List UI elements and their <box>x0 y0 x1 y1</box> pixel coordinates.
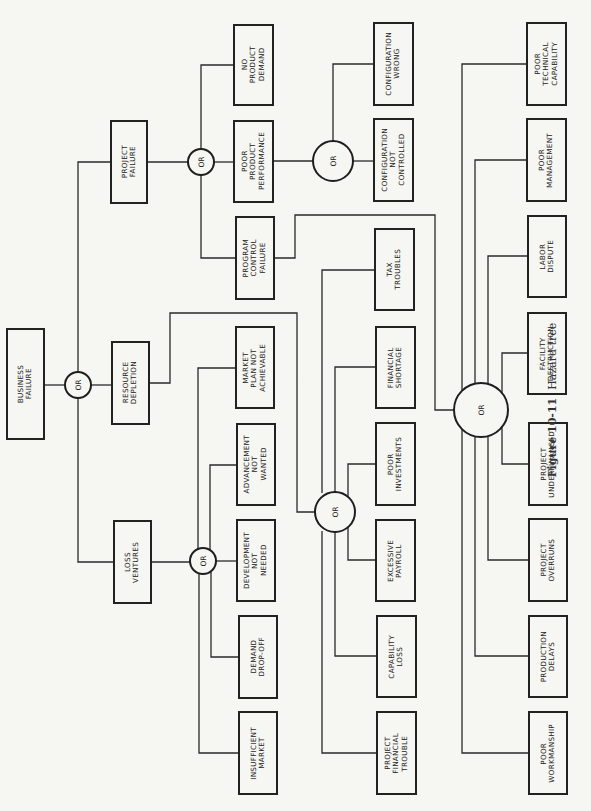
node-no-product-demand: NO PRODUCT DEMAND <box>233 24 274 106</box>
node-poor-investments: POOR INVESTMENTS <box>375 422 416 506</box>
node-excessive-payroll: EXCESSIVE PAYROLL <box>375 519 416 602</box>
node-project-failure: PROJECT FAILURE <box>110 120 148 204</box>
node-insufficient-market: INSUFFICIENT MARKET <box>238 711 278 795</box>
connector-lines <box>0 0 591 811</box>
node-production-delays: PRODUCTION DELAYS <box>528 615 568 698</box>
node-configuration-not-controlled: CONFIGURATION NOT CONTROLLED <box>373 118 414 202</box>
node-poor-technical-capability: POOR TECHNICAL CAPABILITY <box>526 22 567 106</box>
node-configuration-wrong: CONFIGURATION WRONG <box>373 22 414 106</box>
or-gate-large-label: OR <box>477 404 486 415</box>
or-gate-resource-label: OR <box>331 506 340 517</box>
node-project-overruns: PROJECT OVERRUNS <box>528 518 568 602</box>
or-gate-root-label: OR <box>74 379 83 390</box>
node-poor-management: POOR MANAGEMENT <box>526 118 567 202</box>
node-poor-workmanship: POOR WORKMANSHIP <box>528 711 568 795</box>
node-program-control-failure: PROGRAM CONTROL FAILURE <box>235 216 275 300</box>
or-gate-configuration-label: OR <box>329 155 338 166</box>
node-development-not-needed: DEVELOPMENT NOT NEEDED <box>236 519 276 602</box>
figure-caption: Figure 10-11Hazard tree <box>546 323 559 477</box>
node-advancement-not-wanted: ADVANCEMENT NOT WANTED <box>236 423 276 506</box>
node-project-financial-trouble: PROJECT FINANCIAL TROUBLE <box>376 711 417 795</box>
node-capability-loss: CAPABILITY LOSS <box>376 615 417 698</box>
node-resource-depletion: RESOURCE DEPLETION <box>111 341 150 425</box>
figure-number: Figure 10-11 <box>546 398 559 477</box>
node-market-plan-not-achievable: MARKET PLAN NOT ACHIEVABLE <box>235 326 275 409</box>
node-financial-shortage: FINANCIAL SHORTAGE <box>375 326 416 409</box>
node-loss-ventures: LOSS VENTURES <box>113 520 152 604</box>
or-gate-project-failure-label: OR <box>197 156 206 167</box>
node-business-failure: BUSINESS FAILURE <box>6 328 45 440</box>
node-demand-drop-off: DEMAND DROP-OFF <box>238 615 278 699</box>
node-poor-product-performance: POOR PRODUCT PERFORMANCE <box>233 120 274 203</box>
node-tax-troubles: TAX TROUBLES <box>374 228 415 311</box>
or-gate-loss-ventures-label: OR <box>199 555 208 566</box>
figure-title: Hazard tree <box>546 323 559 390</box>
node-labor-dispute: LABOR DISPUTE <box>527 215 567 298</box>
